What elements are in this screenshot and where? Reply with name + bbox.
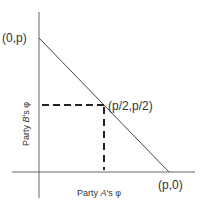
point-label-right: (p,0)	[158, 178, 183, 192]
x-axis-label-prefix: Party	[77, 188, 101, 198]
point-label-top: (0,p)	[2, 31, 27, 45]
point-label-midpoint: (p/2,p/2)	[108, 99, 153, 113]
y-axis-label-prefix: Party	[21, 122, 31, 146]
x-axis-label-suffix: 's φ	[107, 188, 122, 198]
x-axis-label: Party A's φ	[77, 188, 121, 198]
bargaining-diagram: (0,p) (p/2,p/2) (p,0) Party A's φ Party …	[0, 0, 205, 208]
y-axis-label: Party B's φ	[21, 102, 31, 146]
y-axis-label-suffix: 's φ	[21, 102, 31, 117]
x-axis-label-party: A	[100, 188, 107, 198]
